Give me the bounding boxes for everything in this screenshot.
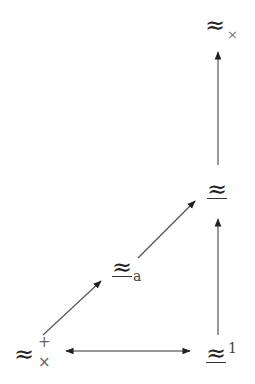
node-bottom-right-symbol: ≈ [206,344,226,363]
node-bottom-left-symbol: ≈ [14,340,34,368]
node-left-mid-symbol: ≈ [112,258,132,277]
node-top: ≈× [205,13,236,37]
node-bottom-right-superscript: 1 [228,340,237,356]
node-bottom-left-subscript: × [38,355,51,370]
arrow-leftmid-to-rightmid [138,201,195,258]
node-top-subscript: × [227,27,238,42]
node-left-mid: ≈a [112,258,140,278]
node-bottom-right: ≈1 [206,344,235,364]
node-right-mid: ≈ [207,180,227,200]
node-bottom-left-superscript: + [38,335,51,350]
node-top-symbol: ≈ [205,11,225,39]
arrow-bottomleft-to-leftmid [43,281,101,335]
node-left-mid-subscript: a [133,268,141,284]
node-bottom-left: ≈ [14,342,34,366]
node-right-mid-symbol: ≈ [207,180,227,199]
